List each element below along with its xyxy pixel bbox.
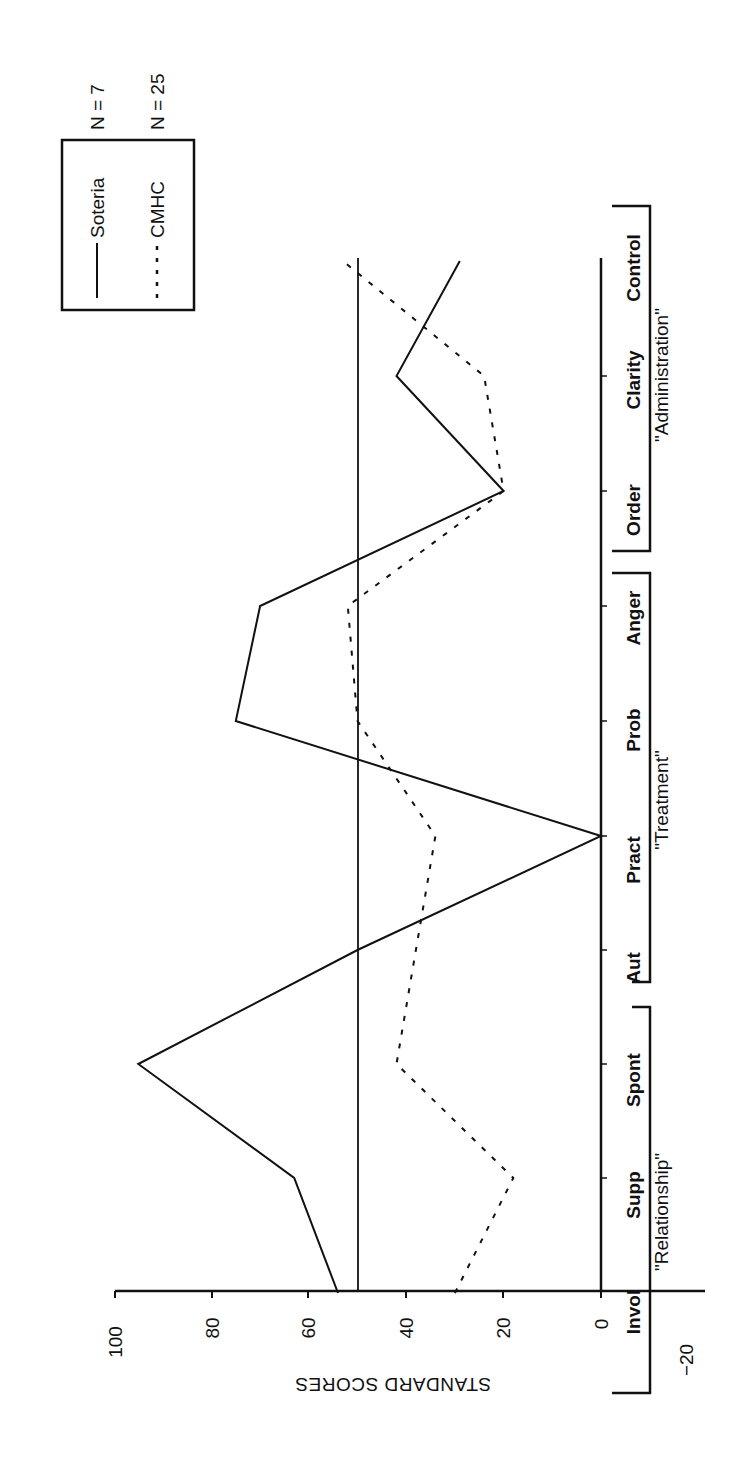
category-label-pract: Pract <box>623 836 644 884</box>
category-label-control: Control <box>623 234 644 302</box>
category-label-anger: Anger <box>623 590 644 646</box>
group-label-relationship: "Relationship" <box>651 1153 672 1271</box>
category-label-clarity: Clarity <box>623 350 644 410</box>
category-label-order: Order <box>623 484 644 536</box>
series-line-cmhc <box>343 261 513 1293</box>
value-axis: 100 80 60 40 20 0 −20 STANDARD SCORES <box>105 1291 705 1395</box>
legend-n-cmhc: N = 25 <box>147 73 168 130</box>
tick-label-60: 60 <box>298 1317 319 1338</box>
group-label-treatment: "Treatment" <box>651 750 672 849</box>
tick-label-20: 20 <box>493 1317 514 1338</box>
chart: 100 80 60 40 20 0 −20 STANDARD SCORES In… <box>0 0 733 1459</box>
tick-label-40: 40 <box>396 1317 417 1338</box>
legend: Soteria CMHC N = 7 N = 25 <box>62 73 194 310</box>
category-label-invol: Invol <box>623 1290 644 1334</box>
tick-label-100: 100 <box>105 1326 126 1358</box>
tick-label-neg20: −20 <box>676 1344 697 1376</box>
legend-n-soteria: N = 7 <box>87 84 108 130</box>
series-line-soteria <box>138 261 601 1293</box>
series-layer <box>138 261 601 1293</box>
group-label-administration: "Administration" <box>651 308 672 442</box>
category-label-prob: Prob <box>623 708 644 751</box>
chart-svg: 100 80 60 40 20 0 −20 STANDARD SCORES In… <box>0 0 733 1459</box>
category-label-aut: Aut <box>623 952 644 984</box>
tick-label-80: 80 <box>202 1317 223 1338</box>
category-label-supp: Supp <box>623 1171 644 1219</box>
value-axis-title: STANDARD SCORES <box>295 1374 491 1395</box>
legend-label-cmhc: CMHC <box>147 181 168 238</box>
legend-box <box>62 140 194 310</box>
category-label-spont: Spont <box>623 1052 644 1106</box>
category-axis: Invol Supp Spont Aut Pract Prob Anger Or… <box>601 206 672 1393</box>
tick-label-0: 0 <box>591 1319 612 1330</box>
legend-label-soteria: Soteria <box>87 177 108 238</box>
